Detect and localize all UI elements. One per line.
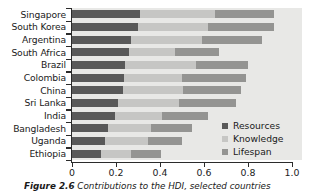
y-axis-tick [66,46,71,47]
bar-segment-knowledge [138,23,208,31]
y-axis-tick [66,135,71,136]
bar-row [72,23,292,31]
bar-segment-resources [72,150,101,158]
x-axis-tick-label: 0.8 [233,167,263,178]
legend-swatch-icon [222,149,228,155]
y-axis-tick [66,33,71,34]
y-axis-tick [66,59,71,60]
y-axis-tick-label: Colombia [0,72,66,83]
bar-segment-lifespan [175,48,219,56]
bar-segment-knowledge [101,150,132,158]
y-axis-tick-label: Bangladesh [0,123,66,134]
bar-segment-knowledge [125,61,197,69]
y-axis-tick-label: Sri Lanka [0,97,66,108]
bar-segment-resources [72,10,140,18]
bar-segment-resources [72,99,118,107]
y-axis-tick [66,109,71,110]
y-axis-tick-label: South Africa [0,47,66,58]
bar-segment-knowledge [123,86,184,94]
figure-caption-label: Figure 2.6 [24,181,75,191]
x-axis-tick-label: 0.4 [145,167,175,178]
legend-label: Resources [233,120,280,131]
y-axis-tick-label: Ethiopia [0,148,66,159]
legend-swatch-icon [222,123,228,129]
bar-segment-knowledge [124,74,182,82]
bar-segment-resources [72,36,131,44]
bar-segment-resources [72,137,105,145]
y-axis-tick [66,8,71,9]
y-axis-tick [66,21,71,22]
bar-segment-lifespan [183,86,241,94]
bar-row [72,61,292,69]
bar-segment-resources [72,48,129,56]
x-axis-tick-label: 0.2 [101,167,131,178]
bar-segment-resources [72,23,138,31]
y-axis-tick-label: India [0,110,66,121]
legend-swatch-icon [222,136,228,142]
y-axis-tick-label: China [0,85,66,96]
x-axis-tick-label: 0.6 [189,167,219,178]
bar-segment-resources [72,124,108,132]
y-axis-tick [66,84,71,85]
bar-row [72,48,292,56]
y-axis-tick-label: Brazil [0,59,66,70]
x-axis-line [71,162,293,163]
bar-segment-lifespan [148,137,182,145]
bar-segment-knowledge [108,124,151,132]
bar-segment-resources [72,61,125,69]
bar-segment-lifespan [208,23,274,31]
bar-segment-knowledge [129,48,175,56]
bar-row [72,86,292,94]
bar-segment-knowledge [131,36,201,44]
bar-segment-lifespan [182,74,246,82]
bar-segment-lifespan [131,150,161,158]
bar-segment-resources [72,112,115,120]
y-axis-tick [66,71,71,72]
legend-label: Knowledge [233,133,284,144]
bar-row [72,10,292,18]
bar-row [72,36,292,44]
x-axis-tick-label: 1.0 [277,167,307,178]
y-axis-tick [66,122,71,123]
figure-caption: Figure 2.6 Contributions to the HDI, sel… [24,181,316,191]
bar-segment-lifespan [179,99,236,107]
bar-segment-knowledge [115,112,162,120]
bar-segment-knowledge [105,137,148,145]
y-axis-tick [66,147,71,148]
bar-segment-lifespan [196,61,248,69]
bar-segment-resources [72,74,124,82]
bar-segment-knowledge [140,10,215,18]
bar-segment-lifespan [215,10,274,18]
legend-item: Lifespan [222,145,302,158]
bar-row [72,99,292,107]
y-axis-tick-label: South Korea [0,21,66,32]
legend-item: Resources [222,119,302,132]
figure-hdi-contributions: SingaporeSouth KoreaArgentinaSouth Afric… [0,0,316,192]
bar-segment-lifespan [202,36,263,44]
bar-segment-lifespan [162,112,208,120]
bar-segment-resources [72,86,123,94]
y-axis-tick-label: Argentina [0,34,66,45]
y-axis-tick-label: Uganda [0,135,66,146]
bar-segment-lifespan [151,124,192,132]
legend-label: Lifespan [233,146,272,157]
y-axis-tick [66,160,71,161]
figure-caption-text: Contributions to the HDI, selected count… [77,181,270,191]
legend-item: Knowledge [222,132,302,145]
bar-segment-knowledge [118,99,179,107]
x-axis-tick-label: 0 [57,167,87,178]
chart-legend: ResourcesKnowledgeLifespan [222,119,302,158]
bar-row [72,74,292,82]
y-axis-tick-label: Singapore [0,9,66,20]
y-axis-tick [66,97,71,98]
